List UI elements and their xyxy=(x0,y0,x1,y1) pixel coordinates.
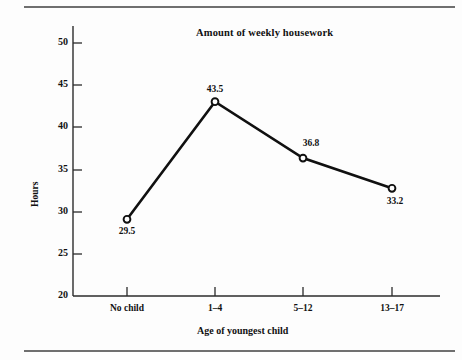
data-point-markers xyxy=(124,98,396,222)
y-tick-label-30: 30 xyxy=(46,205,68,216)
x-axis-title: Age of youngest child xyxy=(197,325,288,336)
x-tick-label-5-12: 5–12 xyxy=(263,303,343,313)
y-axis-ticks xyxy=(73,43,82,254)
data-point-label-33-2: 33.2 xyxy=(375,196,415,206)
data-series-line xyxy=(127,102,392,220)
figure-container: Amount of weekly housework 50 45 40 35 3… xyxy=(0,0,462,360)
data-point-label-29-5: 29.5 xyxy=(107,226,147,236)
y-tick-label-20: 20 xyxy=(46,289,68,300)
chart-title: Amount of weekly housework xyxy=(196,27,333,38)
x-tick-label-1-4: 1–4 xyxy=(175,303,255,313)
x-tick-label-no-child: No child xyxy=(87,303,167,313)
data-point-marker xyxy=(389,185,396,192)
data-point-label-36-8: 36.8 xyxy=(291,138,331,148)
x-tick-label-13-17: 13–17 xyxy=(352,303,432,313)
data-point-marker xyxy=(124,216,131,223)
y-tick-label-25: 25 xyxy=(46,247,68,258)
y-tick-label-35: 35 xyxy=(46,163,68,174)
y-tick-label-45: 45 xyxy=(46,78,68,89)
y-tick-label-50: 50 xyxy=(46,36,68,47)
data-point-marker xyxy=(212,98,219,105)
data-point-label-43-5: 43.5 xyxy=(195,84,235,94)
x-axis-ticks xyxy=(127,287,392,296)
y-axis-title: Hours xyxy=(30,182,40,207)
data-point-marker xyxy=(300,155,307,162)
y-tick-label-40: 40 xyxy=(46,120,68,131)
